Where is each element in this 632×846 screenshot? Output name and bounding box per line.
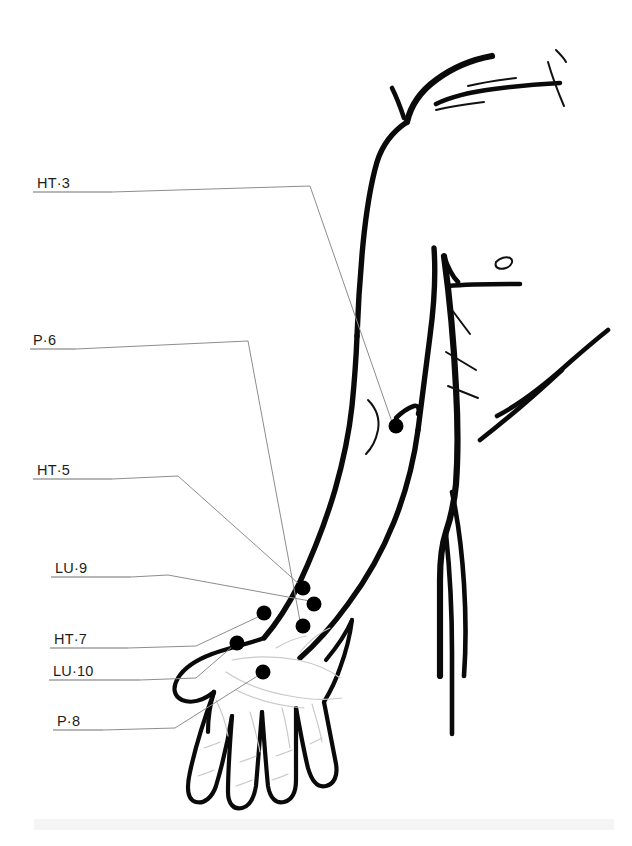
thumb-outline [175, 638, 264, 702]
leader-line-lu9 [131, 575, 310, 601]
acupoint-dot-ht7[interactable] [257, 606, 272, 621]
chest-line [448, 284, 520, 286]
acupoint-label-lu10: LU·10 [53, 663, 94, 679]
shoulder-mark-2 [468, 78, 516, 86]
palm-crease-7 [216, 700, 228, 736]
clavicle-outline [436, 83, 560, 104]
palm-crease-9 [276, 636, 306, 648]
deltoid-outer-outline [357, 122, 407, 336]
knuckle-mark-6 [236, 780, 252, 786]
pectoral-lower-line [497, 330, 608, 416]
arm-outer-lower-outline [264, 336, 357, 638]
acupoint-label-p8: P·8 [57, 713, 80, 729]
knuckle-mark-1 [204, 742, 220, 748]
finger-little-outline [296, 702, 337, 786]
acupoint-label-ht7: HT·7 [54, 631, 87, 647]
acupoint-dot-lu10[interactable] [230, 636, 245, 651]
acupoint-label-p6: P·6 [33, 332, 56, 348]
leader-line-p8 [103, 675, 259, 730]
neck-mark-2 [556, 50, 566, 62]
acupoint-label-lu9: LU·9 [55, 560, 87, 576]
elbow-notch-mark [396, 406, 419, 418]
palm-crease-5 [282, 708, 290, 748]
neck-outline [392, 88, 404, 118]
knuckle-mark-5 [198, 770, 214, 776]
rib-curve-line [480, 370, 562, 440]
scan-artifact-band [34, 819, 614, 830]
leg-line [446, 534, 452, 734]
palm-crease-6 [312, 704, 322, 742]
acupoint-dot-p8[interactable] [256, 665, 271, 680]
palm-crease-3 [236, 690, 304, 708]
finger-index-outline [188, 692, 232, 802]
leader-line-ht5 [112, 476, 299, 584]
arm-group [264, 122, 435, 658]
acupuncture-figure: HT·3 P·6 HT·5 LU·9 HT·7 LU·10 P·8 [0, 0, 632, 846]
armpit-inner-line [418, 248, 435, 430]
acupoint-dot-ht3[interactable] [389, 419, 404, 434]
knuckle-mark-7 [272, 774, 288, 780]
leader-line-ht3 [112, 186, 392, 422]
anatomy-illustration: HT·3 P·6 HT·5 LU·9 HT·7 LU·10 P·8 [0, 0, 632, 846]
acupoint-label-ht5: HT·5 [37, 462, 70, 478]
armpit-fold-2 [446, 352, 476, 370]
palm-crease-1 [232, 657, 340, 678]
elbow-crease-line [366, 400, 379, 454]
torso-side-outline [440, 256, 458, 676]
palm-crease-2 [226, 672, 342, 699]
acupoint-dot-lu9[interactable] [307, 597, 322, 612]
knuckle-mark-3 [276, 750, 292, 756]
knuckle-mark-4 [310, 738, 322, 744]
acupoint-dot-ht5[interactable] [296, 581, 311, 596]
nipple-mark [496, 257, 512, 269]
acupoint-dot-p6[interactable] [296, 619, 311, 634]
acupoint-labels-group: HT·3 P·6 HT·5 LU·9 HT·7 LU·10 P·8 [33, 175, 94, 729]
armpit-fold-3 [448, 386, 478, 398]
knuckle-mark-2 [240, 756, 256, 762]
hand-group [175, 620, 352, 808]
acupoint-label-ht3: HT·3 [37, 175, 70, 191]
